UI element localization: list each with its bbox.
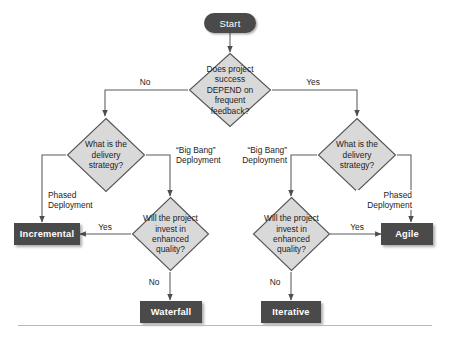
- diamond-shape: [252, 196, 331, 272]
- diamond-shape: [317, 117, 397, 193]
- edge-label-right-bigbang: “Big Bang” Deployment: [233, 145, 287, 165]
- edge-left-phased: [42, 155, 66, 222]
- edge-label-depend-no: No: [132, 77, 158, 87]
- decision-strategy-right[interactable]: What is the delivery strategy?: [317, 117, 397, 193]
- edge-depend-no: [105, 90, 188, 116]
- edge-label-left-bigbang: “Big Bang” Deployment: [176, 145, 230, 165]
- edge-left-bigbang: [146, 155, 170, 196]
- diamond-shape: [188, 52, 272, 128]
- start-node[interactable]: Start: [204, 13, 256, 33]
- decision-strategy-left[interactable]: What is the delivery strategy?: [66, 117, 146, 193]
- diamond-shape: [66, 117, 146, 193]
- edge-label-left-phased: Phased Deployment: [48, 190, 104, 210]
- bottom-divider: [18, 325, 432, 326]
- diamond-shape: [131, 196, 210, 272]
- decision-quality-left[interactable]: Will the project invest in enhanced qual…: [131, 196, 210, 272]
- flowchart-canvas: Start Does project success DEPEND on fre…: [0, 0, 450, 339]
- terminal-waterfall[interactable]: Waterfall: [140, 301, 202, 323]
- terminal-incremental[interactable]: Incremental: [14, 223, 80, 245]
- edge-right-phased: [397, 155, 411, 222]
- decision-quality-right[interactable]: Will the project invest in enhanced qual…: [252, 196, 331, 272]
- edge-label-depend-yes: Yes: [300, 77, 326, 87]
- edge-label-quality-left-yes: Yes: [92, 222, 118, 232]
- edge-label-quality-right-no: No: [264, 277, 286, 287]
- decision-depend[interactable]: Does project success DEPEND on frequent …: [188, 52, 272, 128]
- terminal-agile[interactable]: Agile: [381, 223, 433, 245]
- edge-depend-yes: [272, 90, 357, 116]
- edge-label-quality-left-no: No: [143, 277, 165, 287]
- edge-right-bigbang: [291, 155, 317, 196]
- terminal-iterative[interactable]: Iterative: [261, 301, 321, 323]
- edge-label-quality-right-yes: Yes: [344, 222, 370, 232]
- edge-label-right-phased: Phased Deployment: [356, 190, 412, 210]
